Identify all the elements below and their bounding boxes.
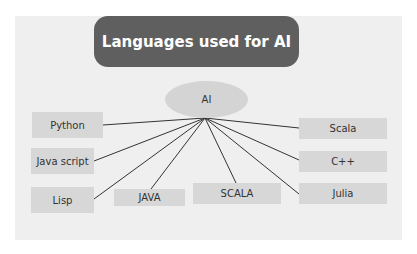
node-java: JAVA bbox=[114, 189, 185, 206]
node-python: Python bbox=[32, 112, 103, 138]
diagram-title: Languages used for AI bbox=[94, 16, 299, 67]
node-lisp: Lisp bbox=[31, 187, 94, 213]
node-scala-upper: SCALA bbox=[193, 183, 281, 204]
node-scala: Scala bbox=[299, 118, 387, 139]
node-cpp: C++ bbox=[299, 151, 387, 172]
node-javascript: Java script bbox=[31, 148, 94, 174]
line-scala bbox=[205, 118, 299, 128]
node-julia: Julia bbox=[299, 183, 387, 204]
line-lisp bbox=[94, 118, 205, 199]
line-cpp bbox=[205, 118, 299, 160]
line-scala-upper bbox=[205, 118, 236, 183]
hub-ai: AI bbox=[165, 81, 248, 118]
